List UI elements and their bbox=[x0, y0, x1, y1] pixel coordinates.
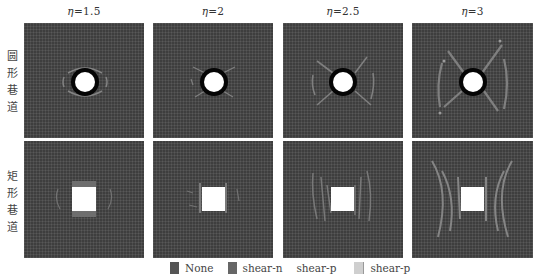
eta-value: =2.5 bbox=[333, 5, 360, 17]
plastic-zone-plot bbox=[283, 141, 403, 258]
panel-circle-eta-2-5 bbox=[283, 23, 403, 138]
legend-label: shear-p bbox=[296, 262, 336, 274]
column-title-eta-2-5: η=2.5 bbox=[283, 5, 403, 21]
legend-item-shear-p-light: shear-p bbox=[354, 262, 410, 274]
panel-square-eta-1-5 bbox=[24, 141, 144, 258]
row-label-char: 圆 bbox=[4, 48, 20, 65]
row-label-char: 道 bbox=[4, 219, 20, 236]
eta-symbol: η bbox=[326, 5, 333, 17]
plastic-zone-plot bbox=[24, 141, 144, 258]
legend-swatch-none bbox=[170, 262, 179, 274]
column-title-eta-3: η=3 bbox=[412, 5, 533, 21]
row-label-char: 道 bbox=[4, 99, 20, 116]
panel-square-eta-3 bbox=[412, 141, 533, 258]
plastic-zone-plot bbox=[283, 23, 403, 138]
column-title-eta-1-5: η=1.5 bbox=[24, 5, 144, 21]
eta-value: =2 bbox=[208, 5, 224, 17]
plastic-zone-plot bbox=[153, 23, 273, 138]
eta-symbol: η bbox=[67, 5, 74, 17]
legend-label: shear-p bbox=[370, 262, 410, 274]
legend-swatch-shear-p bbox=[354, 262, 364, 274]
panel-circle-eta-2 bbox=[153, 23, 273, 138]
panel-square-eta-2 bbox=[153, 141, 273, 258]
plastic-zone-plot bbox=[412, 141, 533, 258]
legend-item-none: None bbox=[170, 262, 214, 274]
panel-circle-eta-3 bbox=[412, 23, 533, 138]
row-label-char: 形 bbox=[4, 65, 20, 82]
row-label-char: 形 bbox=[4, 185, 20, 202]
panel-square-eta-2-5 bbox=[283, 141, 403, 258]
legend-item-shear-n: shear-n bbox=[228, 262, 283, 274]
eta-symbol: η bbox=[461, 5, 468, 17]
legend-label: shear-n bbox=[243, 262, 283, 274]
row-label-char: 巷 bbox=[4, 202, 20, 219]
row-label-char: 巷 bbox=[4, 82, 20, 99]
row-label-circular-roadway: 圆 形 巷 道 bbox=[4, 48, 20, 116]
row-label-rectangular-roadway: 矩 形 巷 道 bbox=[4, 168, 20, 236]
legend-label: None bbox=[185, 262, 214, 274]
legend: None shear-n shear-p shear-p bbox=[170, 260, 424, 276]
column-title-eta-2: η=2 bbox=[153, 5, 273, 21]
eta-value: =1.5 bbox=[74, 5, 101, 17]
row-label-char: 矩 bbox=[4, 168, 20, 185]
eta-value: =3 bbox=[468, 5, 484, 17]
panel-circle-eta-1-5 bbox=[24, 23, 144, 138]
plastic-zone-plot bbox=[24, 23, 144, 138]
plastic-zone-plot bbox=[412, 23, 533, 138]
legend-swatch-shear-n bbox=[228, 262, 237, 274]
plastic-zone-plot bbox=[153, 141, 273, 258]
legend-item-shear-p: shear-p bbox=[296, 262, 336, 274]
